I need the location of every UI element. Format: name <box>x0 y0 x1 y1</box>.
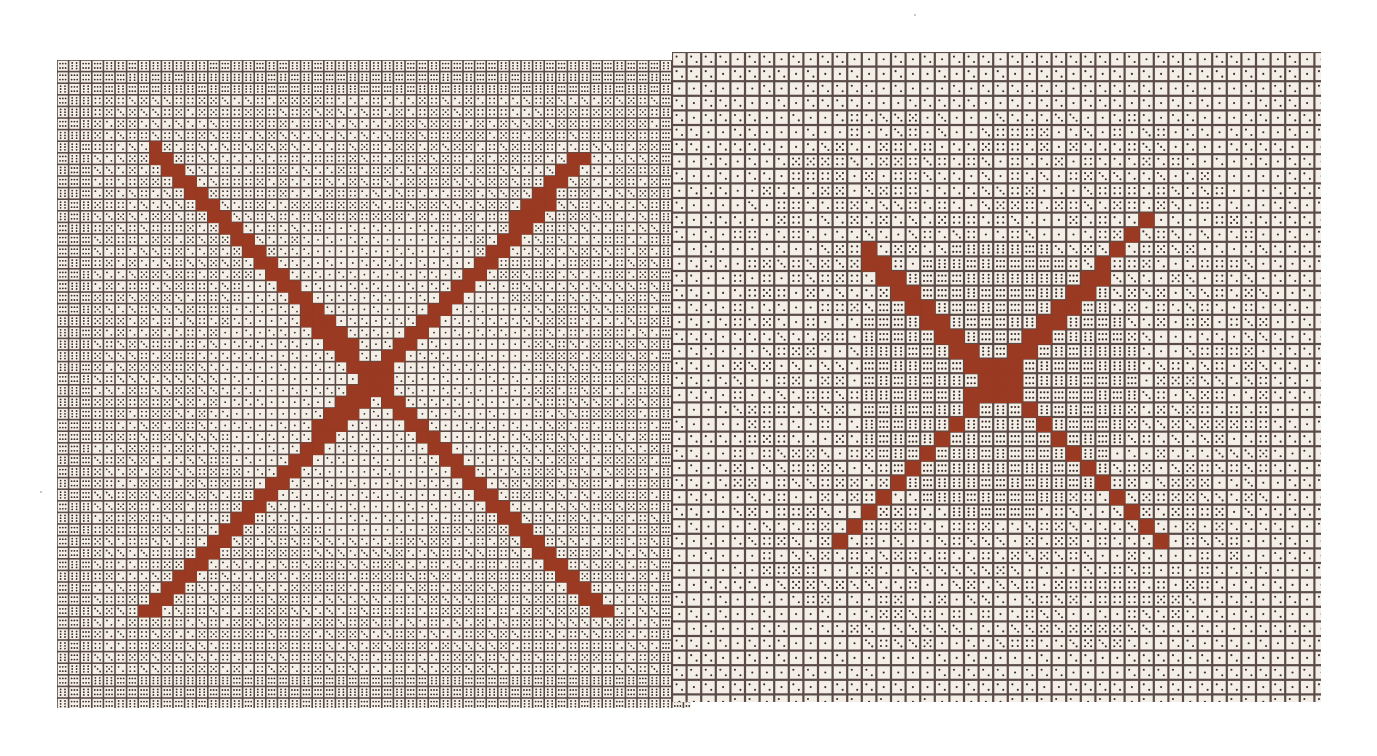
left-dice-mosaic <box>57 60 691 708</box>
right-dice-mosaic <box>672 52 1321 702</box>
dust-speck <box>914 14 916 16</box>
dust-speck <box>40 491 42 493</box>
right-dice-panel <box>672 52 1321 702</box>
left-dice-panel <box>57 60 691 708</box>
